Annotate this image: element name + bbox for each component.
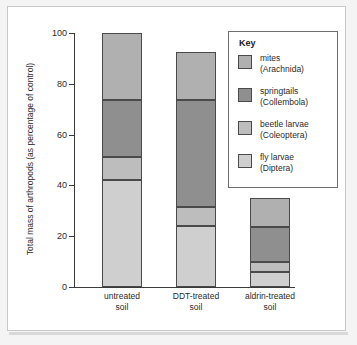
y-tick-mark [69,185,74,186]
legend-box: Key mites(Arachnida)springtails(Collembo… [228,31,338,188]
category-label: aldrin-treatedsoil [224,291,316,313]
legend-entry: beetle larvae(Coleoptera) [238,119,334,149]
y-tick-mark [69,135,74,136]
bar-segment [250,227,290,261]
y-tick-label: 40 [57,180,67,190]
legend-label-primary: fly larvae [260,152,294,163]
panel-shadow [9,332,348,335]
legend-label-secondary: (Collembola) [260,97,308,108]
legend-title: Key [239,38,256,48]
y-tick-label: 0 [62,282,67,292]
legend-entry: fly larvae(Diptera) [238,152,334,182]
bar-segment [102,180,142,287]
legend-label-primary: beetle larvae [260,119,309,130]
bar-segment [102,100,142,157]
legend-label-secondary: (Diptera) [260,163,294,174]
legend-label: beetle larvae(Coleoptera) [260,119,309,141]
legend-label-secondary: (Coleoptera) [260,130,309,141]
y-tick-label: 20 [57,231,67,241]
x-axis-line [74,287,295,288]
legend-label: springtails(Collembola) [260,86,308,108]
bar-segment [250,272,290,287]
y-tick-label: 100 [52,28,67,38]
bar-segment [176,52,216,100]
legend-swatch [238,121,252,135]
bar-segment [176,207,216,226]
legend-label: mites(Arachnida) [260,53,304,75]
legend-label-secondary: (Arachnida) [260,64,304,75]
legend-label: fly larvae(Diptera) [260,152,294,174]
legend-entry: springtails(Collembola) [238,86,334,116]
bar-segment [176,100,216,207]
legend-label-primary: mites [260,53,304,64]
y-tick-mark [69,236,74,237]
legend-swatch [238,55,252,69]
bar-segment [250,198,290,227]
bar-segment [250,262,290,272]
y-tick-mark [69,33,74,34]
y-tick-mark [69,84,74,85]
y-axis-line [74,33,75,287]
chart-panel: Total mass of arthropods (as percentage … [7,6,346,331]
legend-swatch [238,88,252,102]
bar-segment [102,157,142,180]
bar-stack [176,52,216,287]
y-tick-label: 80 [57,79,67,89]
legend-label-primary: springtails [260,86,308,97]
y-tick-mark [69,287,74,288]
bar-segment [102,33,142,100]
category-label-line: aldrin-treated [224,291,316,302]
figure-container: Total mass of arthropods (as percentage … [0,0,357,345]
y-axis-label: Total mass of arthropods (as percentage … [25,63,35,255]
y-tick-label: 60 [57,130,67,140]
category-label-line: soil [224,302,316,313]
legend-swatch [238,154,252,168]
bar-segment [176,226,216,287]
bar-stack [102,33,142,287]
bar-stack [250,198,290,287]
legend-entry: mites(Arachnida) [238,53,334,83]
